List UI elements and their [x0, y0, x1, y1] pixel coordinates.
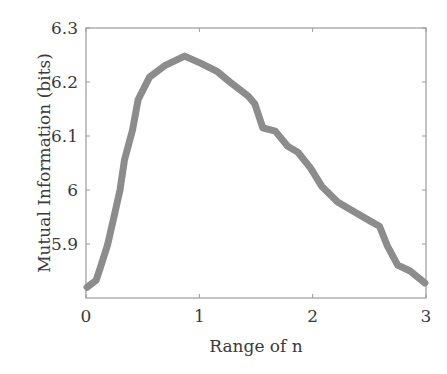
y-tick-label: 5.9	[51, 234, 78, 254]
y-tick-label: 6	[67, 180, 78, 200]
x-tick-label: 2	[307, 306, 318, 326]
y-axis-label: Mutual Information (bits)	[34, 53, 54, 273]
x-tick-label: 0	[81, 306, 92, 326]
x-axis-label: Range of n	[209, 336, 303, 356]
y-tick-label: 6.2	[51, 72, 78, 92]
data-series	[87, 56, 425, 287]
mutual-information-chart: 01235.966.16.26.3 Range of n Mutual Info…	[0, 0, 447, 374]
x-tick-label: 1	[194, 306, 205, 326]
tick-labels: 01235.966.16.26.3	[51, 18, 431, 326]
y-tick-label: 6.3	[51, 18, 78, 38]
plot-border	[86, 28, 426, 298]
x-tick-label: 3	[421, 306, 432, 326]
series-line	[87, 56, 425, 287]
plot-frame	[86, 28, 426, 298]
y-tick-label: 6.1	[51, 126, 78, 146]
axis-ticks	[86, 28, 426, 298]
